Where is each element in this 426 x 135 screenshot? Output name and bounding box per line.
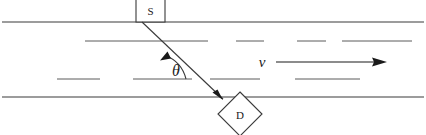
- angle-arc-arrowhead-icon: [160, 52, 171, 61]
- diagram-canvas: S θ ν D: [0, 0, 426, 135]
- detector-label: D: [236, 109, 244, 121]
- ultrasonic-beam: [142, 22, 223, 100]
- source-box: S: [136, 0, 165, 22]
- pipe-flow-diagram: S θ ν D: [0, 0, 426, 135]
- source-label: S: [147, 5, 153, 17]
- angle-indicator: θ: [160, 52, 186, 80]
- detector-diamond: D: [218, 92, 262, 135]
- velocity-vector: ν: [259, 54, 387, 70]
- beam-line: [142, 22, 223, 99]
- velocity-label: ν: [259, 54, 266, 70]
- angle-label: θ: [172, 62, 180, 79]
- velocity-arrowhead-icon: [372, 58, 387, 67]
- pipe-walls: [2, 22, 424, 97]
